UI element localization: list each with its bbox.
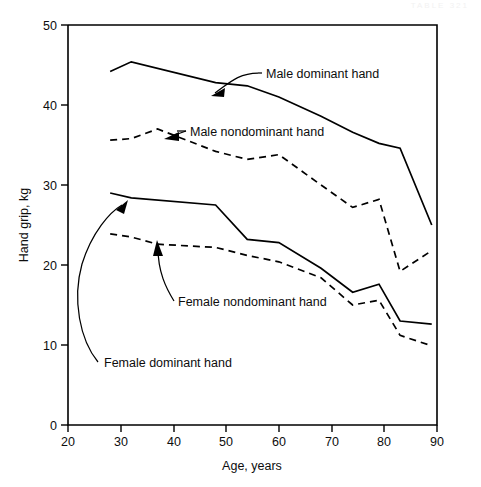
x-tick-label-60: 60	[272, 435, 286, 449]
male-nondominant-annotation: Male nondominant hand	[164, 125, 324, 142]
female-nondominant-annotation-label: Female nondominant hand	[178, 295, 327, 309]
y-tick-label-0: 0	[50, 419, 57, 433]
y-tick-label-40: 40	[43, 99, 57, 113]
x-axis: 20 30 40 50 60 70 80 90 Age, years	[61, 425, 444, 473]
x-tick-label-70: 70	[325, 435, 339, 449]
x-tick-label-40: 40	[167, 435, 181, 449]
male-nondominant-annotation-label: Male nondominant hand	[190, 125, 324, 139]
x-tick-label-80: 80	[377, 435, 391, 449]
male-dominant-annotation: Male dominant hand	[211, 67, 379, 98]
female-dominant-annotation-label: Female dominant hand	[104, 356, 232, 370]
x-axis-title: Age, years	[222, 459, 282, 473]
y-axis: 50 40 30 20 10 0 Hand grip, kg	[17, 19, 68, 433]
y-tick-label-20: 20	[43, 259, 57, 273]
y-tick-label-50: 50	[43, 19, 57, 33]
male-dominant-annotation-label: Male dominant hand	[266, 67, 379, 81]
x-tick-label-30: 30	[114, 435, 128, 449]
y-tick-label-30: 30	[43, 179, 57, 193]
faint-page-header: TABLE 321	[411, 1, 469, 10]
x-tick-label-90: 90	[430, 435, 444, 449]
female-nondominant-annotation: Female nondominant hand	[153, 240, 327, 309]
x-tick-label-20: 20	[61, 435, 75, 449]
x-tick-label-50: 50	[219, 435, 233, 449]
y-tick-label-10: 10	[43, 339, 57, 353]
figure-container: TABLE 321 50 40 30 20 10 0 Hand grip, kg	[0, 0, 481, 487]
female-dominant-annotation: Female dominant hand	[78, 200, 232, 370]
hand-grip-line-chart: 50 40 30 20 10 0 Hand grip, kg 20 30 40 …	[0, 0, 481, 487]
y-axis-title: Hand grip, kg	[17, 188, 31, 262]
